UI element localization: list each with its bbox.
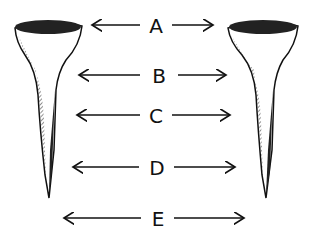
label-a: A — [149, 14, 163, 38]
left-golf-tee — [15, 20, 82, 198]
right-golf-tee — [228, 20, 298, 198]
label-c: C — [149, 104, 163, 128]
label-e: E — [152, 207, 165, 231]
label-d: D — [149, 156, 164, 180]
label-b: B — [152, 64, 166, 88]
